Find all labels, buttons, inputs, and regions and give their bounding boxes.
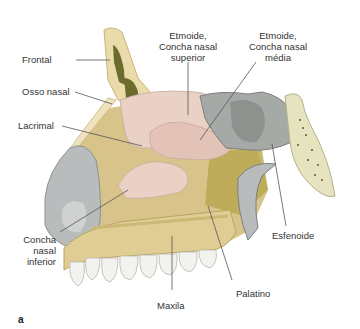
label-etmoide-superior-line2: Concha nasal: [150, 41, 226, 52]
panel-letter: a: [18, 314, 24, 325]
label-palatino: Palatino: [236, 288, 270, 299]
label-frontal: Frontal: [22, 54, 52, 65]
label-etmoide-superior-line3: superior: [150, 52, 226, 63]
label-etmoide-media-line1: Etmoide,: [240, 30, 316, 41]
sphenoid-spongy-bone: [285, 94, 335, 197]
label-concha-inferior: Concha nasal inferior: [18, 234, 56, 267]
label-concha-inferior-line1: Concha: [18, 234, 56, 245]
nasal-cavity-figure: Frontal Osso nasal Lacrimal Etmoide, Con…: [0, 0, 360, 329]
label-maxila: Maxila: [157, 300, 184, 311]
label-etmoide-superior: Etmoide, Concha nasal superior: [150, 30, 226, 63]
label-etmoide-media: Etmoide, Concha nasal média: [240, 30, 316, 63]
label-etmoide-media-line2: Concha nasal: [240, 41, 316, 52]
label-etmoide-superior-line1: Etmoide,: [150, 30, 226, 41]
label-osso-nasal: Osso nasal: [22, 86, 70, 97]
label-concha-inferior-line3: inferior: [18, 256, 56, 267]
label-esfenoide: Esfenoide: [272, 230, 314, 241]
label-etmoide-media-line3: média: [240, 52, 316, 63]
label-concha-inferior-line2: nasal: [18, 245, 56, 256]
label-lacrimal: Lacrimal: [18, 120, 54, 131]
